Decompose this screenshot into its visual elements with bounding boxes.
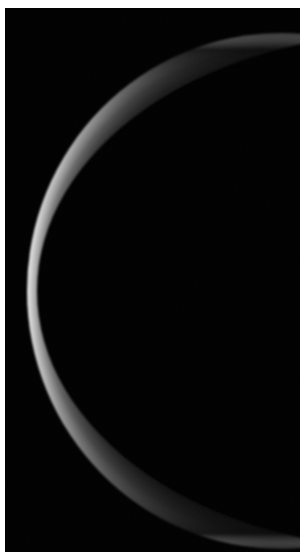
photo-frame: Thin bright crescent limb of a planet ag… <box>0 0 304 559</box>
sensor-grain-overlay <box>5 8 300 552</box>
crescent-planet-image: Thin bright crescent limb of a planet ag… <box>5 8 300 552</box>
photo-plate: Thin bright crescent limb of a planet ag… <box>5 8 300 552</box>
